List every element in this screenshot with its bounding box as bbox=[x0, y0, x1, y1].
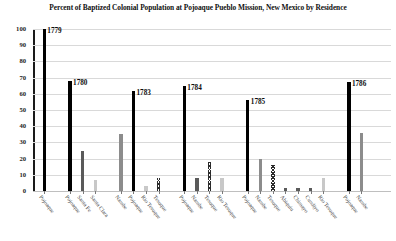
y-tick-label: 0 bbox=[23, 187, 26, 195]
y-tick-label: 30 bbox=[19, 138, 26, 146]
year-data-label: 1780 bbox=[73, 79, 87, 87]
y-tick-label: 60 bbox=[19, 90, 26, 98]
y-tick-label: 20 bbox=[19, 155, 26, 163]
bar bbox=[68, 81, 71, 191]
bar bbox=[360, 133, 363, 191]
y-tick-label: 10 bbox=[19, 171, 26, 179]
chart-container: Percent of Baptized Colonial Population … bbox=[0, 0, 396, 241]
bar bbox=[246, 100, 249, 191]
year-data-label: 1779 bbox=[47, 27, 61, 35]
chart-title: Percent of Baptized Colonial Population … bbox=[48, 3, 348, 13]
year-data-label: 1786 bbox=[352, 80, 366, 88]
bar bbox=[271, 165, 274, 191]
bar bbox=[119, 134, 122, 191]
y-tick-label: 50 bbox=[19, 106, 26, 114]
y-tick-label: 90 bbox=[19, 41, 26, 49]
x-axis-label: Rio Tesuque bbox=[317, 194, 339, 220]
year-data-label: 1783 bbox=[136, 89, 150, 97]
y-tick-label: 70 bbox=[19, 74, 26, 82]
bar bbox=[132, 91, 135, 191]
bar bbox=[81, 151, 84, 192]
bar bbox=[157, 178, 160, 191]
x-axis-label: Santa Clara bbox=[89, 194, 110, 218]
year-data-label: 1785 bbox=[251, 98, 265, 106]
y-tick-label: 100 bbox=[16, 25, 26, 33]
x-axis-category-labels: PojoaquePojoaqueSanta FeSanta ClaraNambe… bbox=[33, 194, 391, 241]
bar bbox=[322, 178, 325, 191]
bar bbox=[195, 178, 198, 191]
bar bbox=[43, 29, 46, 191]
bar bbox=[183, 86, 186, 191]
bar bbox=[347, 82, 350, 191]
bar bbox=[220, 178, 223, 191]
y-tick-label: 40 bbox=[19, 122, 26, 130]
bar bbox=[259, 159, 262, 191]
bar bbox=[208, 162, 211, 191]
year-data-label: 1784 bbox=[187, 84, 201, 92]
plot-area bbox=[33, 29, 391, 191]
x-axis-label: Rio Tesuque bbox=[216, 194, 238, 220]
y-tick-label: 80 bbox=[19, 57, 26, 65]
bars-layer bbox=[33, 29, 391, 191]
bar bbox=[94, 180, 97, 191]
y-axis-tick-labels: 0102030405060708090100 bbox=[0, 24, 30, 196]
x-axis-label: Pojoaque bbox=[38, 194, 56, 214]
